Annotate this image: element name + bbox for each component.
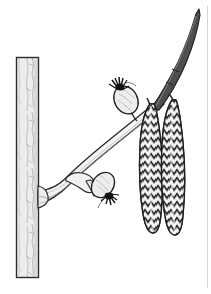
- botanical-illustration: [0, 0, 211, 294]
- illustration-canvas: Hazel twig with female flowers and male …: [0, 0, 211, 294]
- trunk: [17, 58, 39, 278]
